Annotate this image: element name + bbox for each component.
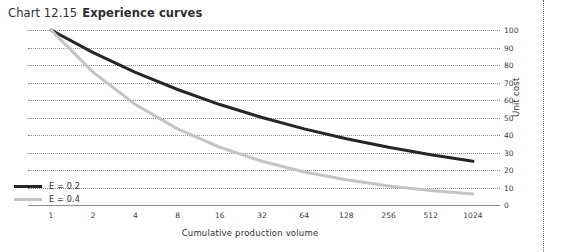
y-axis-tick-label: 0 [504, 201, 509, 210]
axis-line-zero [28, 205, 500, 206]
x-axis-tick-label: 4 [133, 211, 138, 220]
y-axis-tick-label: 20 [504, 166, 514, 175]
y-axis-tick-label: 100 [504, 26, 519, 35]
legend-item[interactable]: E = 0.2 [14, 180, 80, 193]
x-axis-tick-label: 256 [381, 211, 396, 220]
x-axis-tick-label: 16 [215, 211, 225, 220]
y-axis-label: Unit cost [511, 78, 521, 117]
chart-legend: E = 0.2E = 0.4 [14, 180, 80, 206]
legend-swatch-icon [14, 185, 42, 188]
y-axis-tick-label: 10 [504, 183, 514, 192]
legend-swatch-icon [14, 198, 42, 201]
y-axis-tick-label: 40 [504, 131, 514, 140]
x-axis-tick-label: 1 [49, 211, 54, 220]
y-axis-tick-label: 90 [504, 43, 514, 52]
x-axis-tick-label: 32 [257, 211, 267, 220]
chart-title-name: Experience curves [82, 6, 202, 20]
chart-title: Chart 12.15Experience curves [8, 6, 202, 20]
series-line-1 [51, 30, 473, 194]
y-axis-tick-label: 80 [504, 61, 514, 70]
plot-area [28, 30, 500, 205]
series-line-0 [51, 30, 473, 161]
chart-figure: Chart 12.15Experience curves 01020304050… [0, 0, 565, 252]
legend-item[interactable]: E = 0.4 [14, 193, 80, 206]
x-axis-tick-label: 8 [175, 211, 180, 220]
legend-item-label: E = 0.4 [49, 195, 80, 204]
x-axis-label: Cumulative production volume [0, 228, 500, 238]
y-axis-tick-label: 30 [504, 148, 514, 157]
series-curves [28, 30, 500, 205]
page-column-separator [543, 0, 544, 252]
x-axis-tick-label: 128 [339, 211, 354, 220]
x-axis-tick-label: 64 [299, 211, 309, 220]
x-axis-tick-label: 512 [423, 211, 438, 220]
chart-title-number: Chart 12.15 [8, 6, 77, 20]
x-axis-tick-label: 1024 [463, 211, 483, 220]
x-axis-tick-label: 2 [91, 211, 96, 220]
legend-item-label: E = 0.2 [49, 182, 80, 191]
